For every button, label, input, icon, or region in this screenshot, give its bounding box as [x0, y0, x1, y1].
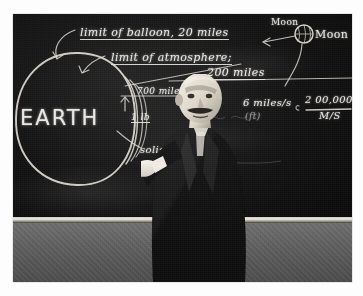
annotation-balloon-limit: limit of balloon, 20 miles [80, 26, 229, 40]
annotation-earth-label: EARTH [20, 106, 99, 130]
pointer-solis [117, 131, 141, 148]
eye-left [188, 94, 195, 99]
annotation-fraction-denominator: M/S [319, 110, 341, 121]
ear [175, 94, 183, 106]
moon-descending-curve [285, 44, 302, 86]
photo-page: limit of balloon, 20 miles limit of atmo… [0, 0, 363, 296]
annotation-moon-caption: Moon [315, 28, 348, 41]
annotation-moon-label: Moon [271, 17, 298, 27]
photograph: limit of balloon, 20 miles limit of atmo… [13, 14, 352, 282]
equals-mark [296, 106, 299, 110]
annotation-atmosphere-limit: limit of atmosphere; [111, 51, 232, 65]
eye-right [206, 94, 212, 98]
annotation-fraction-numerator: 2 00,000 [305, 94, 352, 105]
lecturer-figure [141, 74, 273, 282]
